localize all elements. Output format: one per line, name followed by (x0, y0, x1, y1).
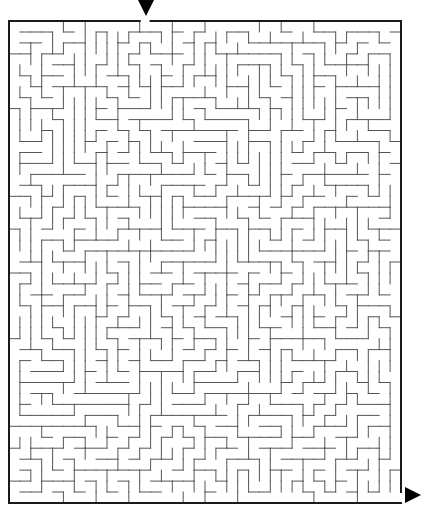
maze-walls (9, 21, 401, 503)
maze-board (0, 0, 421, 521)
entrance-arrow-icon (138, 0, 154, 16)
exit-arrow-icon (405, 487, 421, 503)
